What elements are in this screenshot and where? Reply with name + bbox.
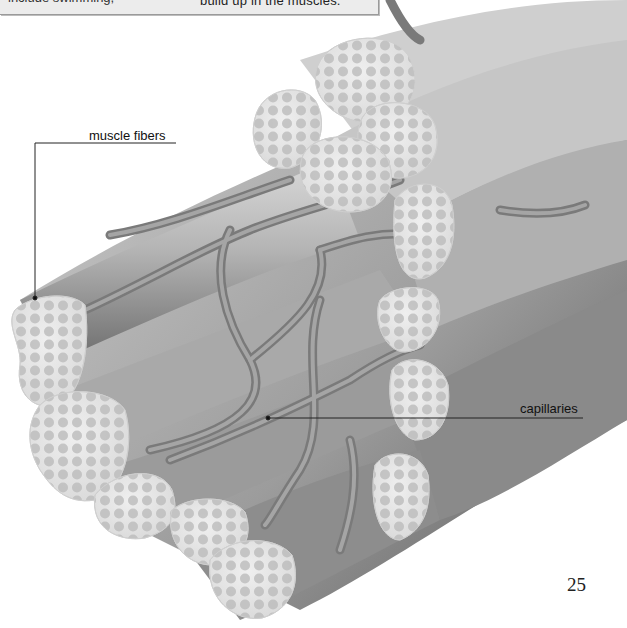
label-muscle-fibers: muscle fibers — [89, 128, 166, 143]
label-capillaries: capillaries — [520, 401, 578, 416]
page-number: 25 — [567, 574, 586, 596]
caption-right-text: build up in the muscles. — [200, 0, 341, 8]
fiber-face — [209, 541, 295, 619]
muscle-bundle-illustration — [0, 0, 627, 628]
caption-box: include swimming, build up in the muscle… — [0, 0, 379, 15]
caption-left-text: include swimming, — [8, 0, 114, 5]
